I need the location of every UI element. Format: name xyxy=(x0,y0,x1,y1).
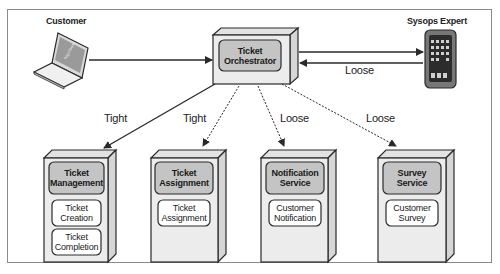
component-line2: Notification xyxy=(274,213,316,223)
component-line2: Completion xyxy=(55,242,99,252)
title-line1: Notification xyxy=(271,168,318,178)
component-line2: Creation xyxy=(60,213,92,223)
component-line2: Assignment xyxy=(161,213,206,223)
title-line2: Service xyxy=(397,178,428,188)
sysops-expert-label: Sysops Expert xyxy=(407,16,467,26)
service-title-notification: Notification Service xyxy=(266,162,324,194)
edge-label-notification: Loose xyxy=(280,112,309,124)
orchestrator-title-line1: Ticket xyxy=(238,46,263,56)
title-line2: Management xyxy=(50,178,103,188)
tight-arrow-assignment xyxy=(203,86,239,146)
component-customer-notification: Customer Notification xyxy=(269,200,321,226)
component-line1: Ticket xyxy=(65,232,87,242)
service-title-assignment: Ticket Assignment xyxy=(155,162,213,194)
component-ticket-completion: Ticket Completion xyxy=(52,229,101,255)
component-line1: Ticket xyxy=(173,203,195,213)
title-line1: Ticket xyxy=(64,168,89,178)
component-line1: Ticket xyxy=(65,203,87,213)
edge-label-assignment: Tight xyxy=(183,112,206,124)
title-line2: Assignment xyxy=(159,178,209,188)
component-ticket-assignment: Ticket Assignment xyxy=(158,200,210,226)
orchestrator-title: Ticket Orchestrator xyxy=(219,40,281,71)
phone-icon xyxy=(425,30,456,88)
component-ticket-creation: Ticket Creation xyxy=(52,200,101,226)
edge-label-management: Tight xyxy=(104,112,127,124)
service-title-management: Ticket Management xyxy=(49,162,104,194)
architecture-diagram: http://www xyxy=(0,0,500,274)
service-title-survey: Survey Service xyxy=(383,162,441,194)
component-line1: Customer xyxy=(276,203,313,213)
edge-label-survey: Loose xyxy=(366,112,395,124)
title-line2: Service xyxy=(280,178,311,188)
component-line2: Survey xyxy=(399,213,426,223)
laptop-icon: http://www xyxy=(34,33,88,89)
edge-label-sysops: Loose xyxy=(345,64,374,76)
title-line1: Ticket xyxy=(172,168,197,178)
customer-label: Customer xyxy=(46,16,86,26)
component-line1: Customer xyxy=(393,203,430,213)
component-customer-survey: Customer Survey xyxy=(386,200,438,226)
orchestrator-title-line2: Orchestrator xyxy=(224,56,276,66)
title-line1: Survey xyxy=(398,168,427,178)
